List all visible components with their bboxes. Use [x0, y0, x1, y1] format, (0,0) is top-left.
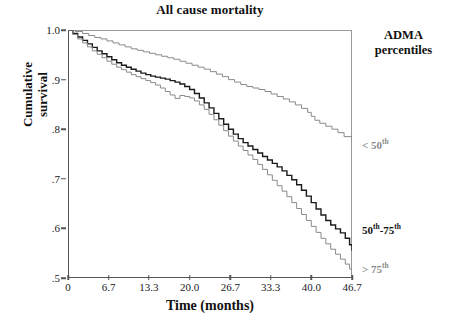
y-tick-mark	[61, 277, 66, 279]
x-axis-title: Time (months)	[68, 298, 352, 314]
x-tick-mark	[230, 275, 232, 280]
x-tick-mark	[189, 275, 191, 280]
x-axis-ticklabels: 06.713.320.026.733.340.046.7	[68, 281, 352, 299]
y-tick-mark	[61, 128, 66, 130]
x-tick-mark	[67, 275, 69, 280]
legend-item-50th-75th: 50th-75th	[362, 224, 401, 236]
y-tick-label: .7	[52, 173, 60, 185]
survival-curve	[68, 30, 352, 273]
y-axis-ticklabels: 1.0.9.8.7.6.5	[0, 30, 66, 278]
y-tick-mark	[61, 29, 66, 31]
y-tick-mark	[61, 178, 66, 180]
survival-curves	[68, 30, 352, 278]
y-tick-label: 1.0	[46, 24, 60, 36]
survival-curve	[68, 30, 352, 142]
x-tick-label: 40.0	[302, 281, 321, 293]
y-tick-mark	[61, 79, 66, 81]
x-tick-label: 33.3	[261, 281, 280, 293]
legend-title-line1: ADMA	[384, 28, 423, 42]
x-tick-label: 20.0	[180, 281, 199, 293]
legend-item-lt-50th: < 50th	[362, 139, 389, 151]
chart-root: All cause mortality Cumulative survival …	[0, 0, 451, 323]
y-tick-label: .8	[52, 123, 60, 135]
x-tick-mark	[270, 275, 272, 280]
x-tick-mark	[311, 275, 313, 280]
legend-title: ADMA percentiles	[356, 28, 451, 58]
y-tick-label: .6	[52, 222, 60, 234]
x-tick-mark	[351, 275, 353, 280]
x-tick-label: 6.7	[102, 281, 116, 293]
y-tick-label: .9	[52, 74, 60, 86]
x-tick-mark	[108, 275, 110, 280]
x-tick-label: 13.3	[139, 281, 158, 293]
survival-curve	[68, 30, 352, 251]
y-tick-mark	[61, 228, 66, 230]
legend-item-gt-75th: > 75th	[362, 263, 389, 275]
y-tick-label: .5	[52, 272, 60, 284]
page-title: All cause mortality	[68, 2, 352, 18]
plot-area	[68, 30, 352, 278]
x-tick-label: 26.7	[221, 281, 240, 293]
legend-title-line2: percentiles	[375, 43, 432, 57]
x-tick-mark	[148, 275, 150, 280]
legend: ADMA percentiles < 50th 50th-75th > 75th	[356, 0, 451, 323]
x-tick-label: 0	[65, 281, 71, 293]
